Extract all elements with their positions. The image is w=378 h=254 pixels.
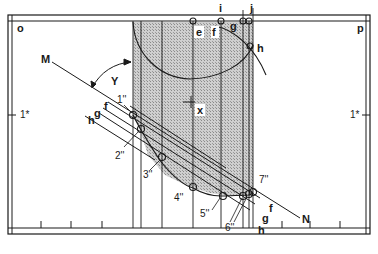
point-label-1: 1'' (117, 94, 126, 105)
top-label-f: f (212, 26, 216, 38)
right-label-f: f (269, 202, 273, 214)
point-label-2: 2'' (115, 150, 124, 161)
scale-label-right: 1* (350, 109, 360, 120)
left-label-h: h (88, 114, 95, 126)
scale-label-left: 1* (20, 109, 30, 120)
corner-label-p: p (357, 22, 364, 34)
top-label-i: i (219, 2, 222, 14)
top-label-g: g (230, 20, 237, 32)
point-label-6: 6'' (225, 222, 234, 233)
bottom-scale-ticks (41, 221, 340, 228)
center-label-x: x (197, 104, 204, 116)
line-label-m: M (41, 53, 50, 65)
top-label-j: j (249, 2, 253, 14)
point-label-4: 4'' (174, 192, 183, 203)
top-label-h: h (257, 42, 264, 54)
point-label-7: 7'' (259, 174, 268, 185)
line-label-n: N (302, 213, 310, 225)
left-label-g: g (94, 107, 101, 119)
technical-drawing: o p 1* 1* M N Y x e f g h i j f g h f g … (0, 0, 378, 254)
corner-label-o: o (17, 22, 24, 34)
right-label-h: h (258, 224, 265, 236)
top-label-e: e (196, 26, 202, 38)
left-label-f: f (104, 100, 108, 112)
right-label-g: g (262, 212, 269, 224)
angle-label-y: Y (111, 75, 119, 87)
point-label-5: 5'' (200, 208, 209, 219)
point-label-3: 3'' (143, 169, 152, 180)
